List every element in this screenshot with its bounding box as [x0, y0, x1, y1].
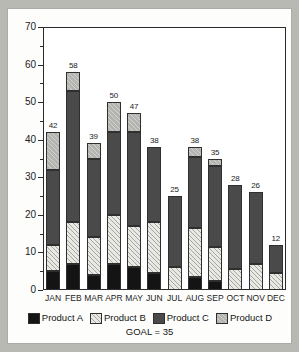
- chart-legend: Product AProduct BProduct CProduct D: [30, 311, 270, 325]
- legend-label: Product C: [167, 313, 209, 323]
- bar-segment: [147, 222, 161, 273]
- bar-segment: [46, 132, 60, 170]
- y-tick-label: 50: [25, 97, 36, 107]
- bar-segment: [228, 269, 242, 290]
- bar-column[interactable]: 38: [188, 27, 202, 290]
- bar-column[interactable]: 50: [107, 27, 121, 290]
- bar-segment: [208, 247, 222, 281]
- x-axis: JANFEBMARAPRMAYJUNJULAUGSEPOCTNOVDEC: [43, 292, 286, 308]
- bar-segment: [127, 267, 141, 290]
- bar-segment: [249, 192, 263, 263]
- bar-column[interactable]: 38: [147, 27, 161, 290]
- bar-column[interactable]: 12: [269, 27, 283, 290]
- legend-label: Product A: [42, 313, 83, 323]
- legend-swatch-icon: [90, 313, 102, 324]
- legend-item[interactable]: Product A: [28, 313, 83, 324]
- y-tick-label: 70: [25, 22, 36, 32]
- bar-total-label: 50: [99, 92, 129, 100]
- y-tick-label: 60: [25, 60, 36, 70]
- bar-total-label: 26: [241, 182, 271, 190]
- legend-item[interactable]: Product D: [216, 313, 272, 324]
- bars-layer: 425839504738253835282612: [43, 27, 286, 290]
- bar-segment: [208, 159, 222, 167]
- bar-segment: [107, 264, 121, 290]
- legend-swatch-icon: [153, 313, 165, 324]
- y-axis: 010203040506070: [8, 9, 43, 308]
- bar-total-label: 35: [200, 149, 230, 157]
- bar-segment: [87, 159, 101, 238]
- bar-column[interactable]: 35: [208, 27, 222, 290]
- bar-segment: [46, 271, 60, 290]
- bar-segment: [269, 273, 283, 290]
- bar-total-label: 38: [139, 137, 169, 145]
- bar-segment: [66, 264, 80, 290]
- legend-label: Product D: [230, 313, 272, 323]
- bar-segment: [107, 215, 121, 264]
- bar-column[interactable]: 25: [168, 27, 182, 290]
- legend-label: Product B: [104, 313, 146, 323]
- bar-column[interactable]: 39: [87, 27, 101, 290]
- bar-segment: [188, 277, 202, 290]
- bar-segment: [46, 170, 60, 245]
- bar-column[interactable]: 28: [228, 27, 242, 290]
- bar-segment: [147, 273, 161, 290]
- bar-segment: [107, 132, 121, 215]
- bar-segment: [147, 147, 161, 222]
- bar-total-label: 12: [261, 235, 291, 243]
- y-tick-mark: [38, 290, 43, 291]
- bar-segment: [66, 72, 80, 91]
- bar-segment: [87, 275, 101, 290]
- legend-item[interactable]: Product C: [153, 313, 209, 324]
- bar-segment: [208, 281, 222, 290]
- y-tick-label: 0: [30, 285, 36, 295]
- bar-total-label: 38: [180, 137, 210, 145]
- bar-segment: [66, 222, 80, 263]
- bar-segment: [188, 228, 202, 277]
- bar-total-label: 42: [38, 122, 68, 130]
- bar-segment: [168, 196, 182, 267]
- bar-segment: [66, 91, 80, 223]
- bar-column[interactable]: 58: [66, 27, 80, 290]
- y-tick-label: 10: [25, 247, 36, 257]
- bar-segment: [46, 245, 60, 271]
- chart-page: 010203040506070 425839504738253835282612…: [0, 0, 299, 352]
- bar-total-label: 25: [160, 186, 190, 194]
- bar-segment: [188, 157, 202, 228]
- x-tick-label-dec: DEC: [263, 294, 289, 303]
- bar-total-label: 39: [79, 133, 109, 141]
- bar-segment: [87, 143, 101, 158]
- bar-segment: [249, 264, 263, 290]
- legend-item[interactable]: Product B: [90, 313, 146, 324]
- bar-column[interactable]: 47: [127, 27, 141, 290]
- y-tick-label: 20: [25, 210, 36, 220]
- bar-segment: [228, 185, 242, 270]
- bar-segment: [168, 267, 182, 290]
- bar-total-label: 58: [58, 62, 88, 70]
- chart-card: 010203040506070 425839504738253835282612…: [8, 9, 291, 343]
- bar-segment: [127, 113, 141, 132]
- bar-segment: [87, 237, 101, 275]
- legend-swatch-icon: [216, 313, 228, 324]
- bar-column[interactable]: 26: [249, 27, 263, 290]
- legend-swatch-icon: [28, 313, 40, 324]
- y-tick-label: 40: [25, 135, 36, 145]
- bar-segment: [127, 132, 141, 226]
- bar-total-label: 47: [119, 103, 149, 111]
- y-tick-label: 30: [25, 172, 36, 182]
- goal-annotation: GOAL = 35: [8, 326, 291, 337]
- bar-segment: [127, 226, 141, 267]
- bar-segment: [269, 245, 283, 273]
